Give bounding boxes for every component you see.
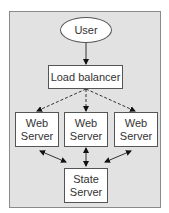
edge-ws3-ss	[105, 151, 131, 162]
edge-lb-ws1	[37, 89, 86, 111]
edge-lb-ws3	[86, 89, 135, 111]
web-server-node-3: Web Server	[114, 112, 158, 147]
web-server-node-2: Web Server	[64, 112, 108, 147]
load-balancer-node: Load balancer	[48, 65, 123, 89]
web-server-node-1: Web Server	[15, 112, 59, 147]
state-server-node: State Server	[64, 168, 108, 203]
edge-ws1-ss	[40, 151, 66, 162]
user-node: User	[60, 17, 112, 43]
